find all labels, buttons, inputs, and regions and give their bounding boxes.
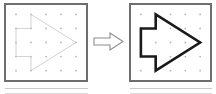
figure-stage [0, 0, 216, 94]
arrow-polygon-faded [16, 14, 76, 70]
partial-panel-below-left [5, 88, 88, 89]
arrow-polygon-solid [141, 14, 200, 70]
left-panel[interactable] [4, 3, 88, 82]
right-arrow-connector-icon [93, 31, 124, 52]
shape-outline-left-faded [6, 5, 86, 80]
right-panel[interactable] [129, 3, 212, 82]
partial-panel-below-right [130, 88, 212, 89]
partial-panel-below-right-secondary [130, 93, 212, 94]
right-panel-canvas [131, 5, 210, 80]
left-panel-canvas [6, 5, 86, 80]
partial-panel-below-left-secondary [5, 93, 88, 94]
right-arrow-connector [93, 31, 124, 52]
shape-outline-right-solid [131, 5, 210, 80]
arrow-glyph [94, 33, 123, 50]
